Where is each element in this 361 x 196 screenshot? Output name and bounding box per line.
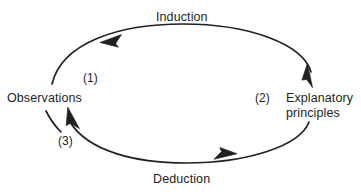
explanatory-arrowhead (302, 64, 313, 88)
node-label-explanatory-principles: Explanatory principles (286, 91, 358, 120)
step-marker-2: (2) (255, 92, 270, 105)
edge-label-induction: Induction (156, 10, 208, 24)
observations-arc-stub (46, 111, 61, 132)
step-marker-1: (1) (83, 72, 98, 85)
deduction-arrowhead (214, 147, 237, 159)
cycle-diagram: Induction Deduction Observations Explana… (0, 0, 361, 196)
step-marker-3: (3) (58, 135, 73, 148)
node-label-observations: Observations (7, 91, 82, 105)
edge-label-deduction: Deduction (153, 172, 210, 186)
deduction-arc (70, 122, 309, 163)
